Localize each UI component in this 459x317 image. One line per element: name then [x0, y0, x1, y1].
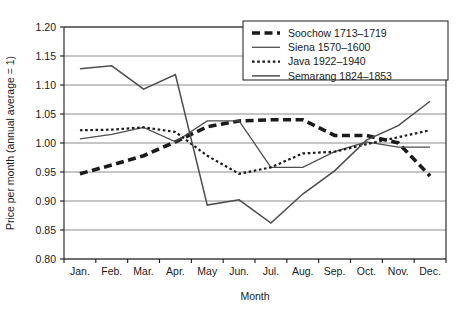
x-tick-label: Aug.	[292, 265, 314, 277]
y-tick-label: 0.95	[36, 166, 57, 178]
y-tick-label: 0.90	[36, 195, 57, 207]
y-tick-label: 0.80	[36, 253, 57, 265]
x-tick-label: Jan.	[70, 265, 90, 277]
legend-label: Java 1922–1940	[288, 55, 366, 67]
x-tick-label: Nov.	[388, 265, 409, 277]
x-tick-label: May	[197, 265, 218, 277]
x-tick-label: Oct.	[357, 265, 376, 277]
legend-label: Siena 1570–1600	[288, 41, 370, 53]
legend-label: Semarang 1824–1853	[288, 70, 392, 82]
y-tick-label: 1.15	[36, 50, 57, 62]
y-tick-label-group: 1.201.151.101.051.000.950.900.850.80	[36, 21, 57, 265]
x-tick-label: Mar.	[133, 265, 153, 277]
y-tick-label: 1.05	[36, 108, 57, 120]
chart-figure: 1.201.151.101.051.000.950.900.850.80 Jan…	[0, 0, 459, 317]
y-tick-label: 0.85	[36, 224, 57, 236]
chart-legend: Soochow 1713–1719Siena 1570–1600Java 192…	[243, 21, 448, 82]
y-tick-label: 1.00	[36, 137, 57, 149]
y-tick-label: 1.10	[36, 79, 57, 91]
x-axis-title: Month	[240, 290, 269, 302]
legend-label: Soochow 1713–1719	[288, 27, 387, 39]
y-tick-label: 1.20	[36, 21, 57, 33]
x-tick-label: Feb.	[101, 265, 122, 277]
x-tick-label: Jul.	[263, 265, 279, 277]
x-tick-label: Dec.	[419, 265, 441, 277]
x-tick-label: Jun.	[229, 265, 249, 277]
price-per-month-line-chart: 1.201.151.101.051.000.950.900.850.80 Jan…	[0, 0, 459, 317]
x-tick-label: Apr.	[166, 265, 185, 277]
y-axis-title: Price per month (annual average = 1)	[4, 56, 16, 230]
x-tick-label: Sep.	[324, 265, 346, 277]
